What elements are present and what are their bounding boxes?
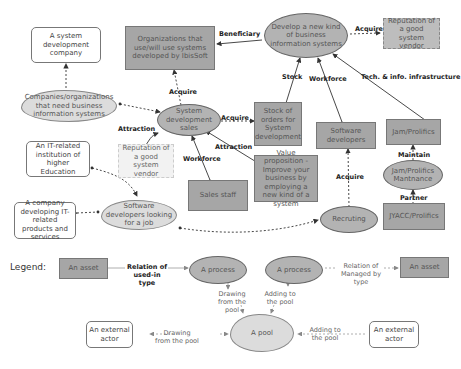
node-develop-new-kind[interactable]: Develop a new kind of business informati… xyxy=(264,13,348,58)
node-jam-prolifics[interactable]: Jam/Prolifics xyxy=(386,119,441,145)
node-it-institution[interactable]: An IT-related institution of higher Educ… xyxy=(26,141,90,177)
legend-pool: A pool xyxy=(230,314,294,352)
node-reputation-middle[interactable]: Reputation of a good system vendor xyxy=(118,144,174,178)
node-software-developers[interactable]: Software developers xyxy=(316,122,376,149)
label-stock: Stock xyxy=(282,73,302,81)
legend-process-1: A process xyxy=(189,256,247,284)
label-acquire-stock: Acquire xyxy=(221,114,249,122)
label-acquire-developers: Acquire xyxy=(336,173,364,181)
label-workforce-sales: Workforce xyxy=(183,155,221,163)
node-value-proposition[interactable]: Value proposition - Improve your busines… xyxy=(254,155,318,202)
legend-external-actor-1: An external actor xyxy=(86,321,133,348)
node-jyacc-prolifics[interactable]: JYACC/Prolifics xyxy=(383,203,445,230)
node-reputation-top[interactable]: Reputation of a good system vendor xyxy=(383,18,440,49)
legend-process-2: A process xyxy=(265,256,323,284)
label-acquire-reputation: Acquire xyxy=(355,25,383,33)
node-jam-prolifics-maintenance[interactable]: Jam/Prolifics Mantnance xyxy=(383,160,443,190)
legend-adding-to-pool-1: Adding to the pool xyxy=(264,290,296,306)
legend-adding-to-pool-2: Adding to the pool xyxy=(305,326,345,342)
node-developers-looking-for-job[interactable]: Software developers looking for a job xyxy=(101,200,177,230)
node-stock-of-orders[interactable]: Stock of orders for System development xyxy=(254,102,302,146)
label-tech-info-infrastructure: Tech. & info. infrastructure xyxy=(361,73,460,81)
label-attraction-left: Attraction xyxy=(118,125,155,133)
node-system-development-sales[interactable]: System development sales xyxy=(157,104,221,136)
legend-title: Legend: xyxy=(10,262,46,272)
legend-asset-2: An asset xyxy=(400,257,449,278)
legend-drawing-from-pool-2: Drawing from the pool xyxy=(155,329,199,345)
legend-drawing-from-pool-1: Drawing from the pool xyxy=(212,290,252,314)
legend-managed-by-relation: Relation of Managed by type xyxy=(338,262,384,286)
node-system-development-company[interactable]: A system development company xyxy=(31,27,101,63)
label-attraction-right: Attraction xyxy=(215,143,252,151)
label-workforce-top: Workforce xyxy=(309,75,347,83)
label-maintain: Maintain xyxy=(398,151,430,159)
legend-asset-1: An asset xyxy=(59,258,108,279)
label-partner: Partner xyxy=(400,194,428,202)
node-it-company[interactable]: A company developing IT-related products… xyxy=(14,202,76,239)
node-sales-staff[interactable]: Sales staff xyxy=(188,180,248,211)
label-beneficiary: Beneficiary xyxy=(219,30,260,38)
label-acquire-orgs: Acquire xyxy=(169,88,197,96)
legend-used-in-relation: Relation of used-in type xyxy=(127,263,167,287)
node-organizations-using-systems[interactable]: Organizations that use/will use systems … xyxy=(125,26,215,70)
node-recruting[interactable]: Recruting xyxy=(320,206,378,233)
legend-external-actor-2: An external actor xyxy=(369,321,419,348)
node-companies-need-systems[interactable]: Companies/organizations that need busine… xyxy=(21,90,117,122)
